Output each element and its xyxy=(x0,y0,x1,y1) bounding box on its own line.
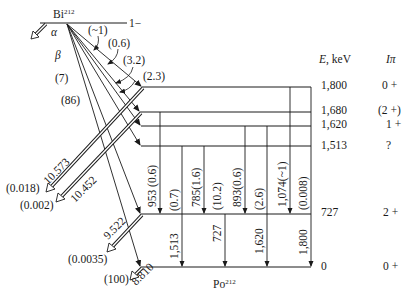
decay-scheme-diagram: Bi212 1− α β (~1) (0.6) (3.2) (2.3) (7) … xyxy=(0,0,414,302)
level-spin-1680: (2 +) xyxy=(378,104,401,117)
level-energy-1680: 1,680 xyxy=(321,104,347,117)
alpha-intensity-9522: (0.0035) xyxy=(68,253,107,266)
alpha-energy-9522: 9.522 xyxy=(101,214,128,241)
beta-label: β xyxy=(54,49,61,62)
alpha-label: α xyxy=(51,26,58,38)
gamma-energy-1513: 1,513 xyxy=(168,233,181,259)
gamma-intensity-1513: (0.7) xyxy=(168,189,181,211)
level-spin-1620: 1 + xyxy=(386,118,401,130)
level-spin-1800: 0 + xyxy=(382,79,397,91)
level-spin-0: 0 + xyxy=(383,260,398,272)
parent-alpha-arrow-icon xyxy=(31,24,46,39)
level-energy-1800: 1,800 xyxy=(321,79,347,92)
beta-intensity-1620: (3.2) xyxy=(123,54,145,67)
gamma-energy-727: 727 xyxy=(211,225,223,243)
alpha-energy-8810: 8.810 xyxy=(129,260,156,287)
gamma-intensity-1800: (0.008) xyxy=(297,176,310,210)
level-spin-727: 2 + xyxy=(383,206,398,218)
gamma-intensity-727: (10.2) xyxy=(211,182,224,210)
alpha-arrow-10452-icon xyxy=(56,113,141,202)
gamma-energy-1800: 1,800 xyxy=(297,229,310,255)
gamma-label-893: 893(0.6) xyxy=(231,168,244,207)
leader-arc-1680 xyxy=(108,49,118,64)
gamma-intensity-1620: (2.6) xyxy=(253,188,266,210)
level-energy-1620: 1,620 xyxy=(321,118,347,131)
gamma-label-1074: 1,074(~1) xyxy=(276,161,289,207)
level-energy-727: 727 xyxy=(321,206,339,218)
beta-intensity-0: (86) xyxy=(61,94,80,107)
gamma-label-785: 785(1.6) xyxy=(190,168,203,207)
level-energy-0: 0 xyxy=(321,260,327,272)
alpha-intensity-10573: (0.018) xyxy=(6,182,40,195)
beta-intensity-1513: (2.3) xyxy=(143,70,165,83)
parent-nucleus-label: Bi212 xyxy=(53,8,75,20)
gamma-energy-1620: 1,620 xyxy=(253,228,266,254)
beta-intensity-1800: (~1) xyxy=(88,24,108,37)
daughter-nucleus-label: Po212 xyxy=(213,278,236,290)
energy-header: E, keV xyxy=(318,53,352,66)
leader-arc-1800 xyxy=(94,36,99,50)
parent-spin-parity: 1− xyxy=(129,17,141,29)
level-spin-1513: ? xyxy=(386,139,391,151)
alpha-intensity-8810: (100) xyxy=(104,273,129,286)
leader-arc-1620 xyxy=(116,67,133,83)
beta-intensity-727: (7) xyxy=(55,72,69,85)
alpha-intensity-10452: (0.002) xyxy=(20,199,54,212)
alpha-energy-10452: 10.452 xyxy=(68,173,99,204)
level-energy-1513: 1,513 xyxy=(321,139,347,152)
gamma-label-953: 953 (0.6) xyxy=(146,165,159,207)
spin-header: Iπ xyxy=(385,53,397,65)
beta-intensity-1680: (0.6) xyxy=(108,37,130,50)
